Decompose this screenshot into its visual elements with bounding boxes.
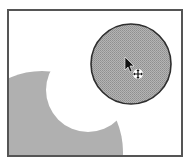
drawing-canvas[interactable] — [7, 9, 183, 157]
canvas-drawing — [9, 11, 183, 157]
